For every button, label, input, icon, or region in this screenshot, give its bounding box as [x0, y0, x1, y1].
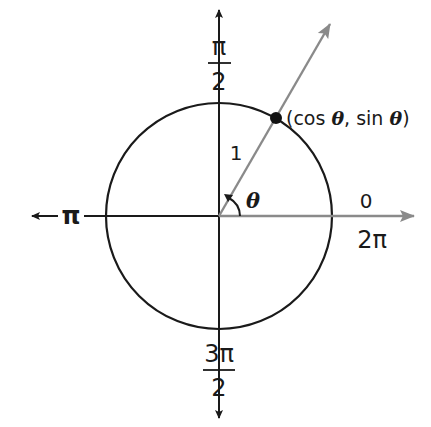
label-pi-over-2-den: 2	[211, 68, 226, 96]
label-theta: θ	[246, 188, 260, 213]
point-on-circle	[270, 112, 282, 124]
label-3pi-over-2-den: 2	[211, 374, 226, 402]
label-3pi-over-2-num: 3π	[204, 340, 234, 368]
point-label-theta-1: θ	[331, 107, 344, 129]
label-pi: π	[62, 202, 81, 230]
label-zero: 0	[360, 189, 373, 213]
label-pi-over-2-num: π	[212, 33, 226, 61]
label-point-coordinates: (cos θ, sin θ)	[286, 107, 410, 129]
point-label-theta-2: θ	[389, 107, 402, 129]
point-label-suffix: )	[402, 107, 409, 129]
label-radius-one: 1	[230, 141, 243, 165]
angle-arc	[229, 198, 240, 216]
point-label-prefix: (cos	[286, 107, 331, 129]
point-label-mid: , sin	[344, 107, 389, 129]
label-2pi: 2π	[357, 226, 387, 254]
unit-circle-diagram: π 2 π 0 2π 3π 2 1 θ (cos θ, sin θ)	[0, 0, 431, 427]
